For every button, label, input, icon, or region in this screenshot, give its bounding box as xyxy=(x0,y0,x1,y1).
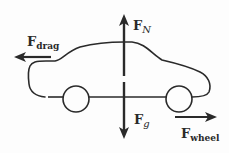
rear-wheel xyxy=(63,86,89,112)
normal-force-arrow xyxy=(119,14,129,76)
front-wheel xyxy=(166,86,192,112)
wheel-force-arrow xyxy=(175,112,217,122)
wheel-force-label: Fwheel xyxy=(181,126,220,143)
gravity-force-arrow xyxy=(119,82,129,139)
gravity-force-label: Fg xyxy=(134,112,150,129)
normal-force-label: FN xyxy=(133,18,152,35)
drag-force-label: Fdrag xyxy=(27,34,60,51)
free-body-diagram: FN Fdrag Fg Fwheel xyxy=(0,0,229,153)
